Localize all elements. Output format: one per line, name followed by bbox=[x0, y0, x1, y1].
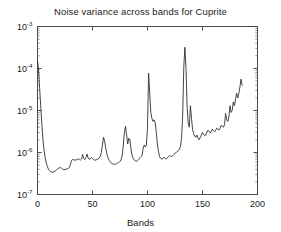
data-series-line bbox=[38, 47, 243, 172]
x-tick-label: 100 bbox=[140, 199, 155, 209]
x-tick-label: 200 bbox=[250, 199, 265, 209]
x-axis-tick-labels: 050100150200 bbox=[35, 199, 265, 209]
y-tick-label: 10-6 bbox=[17, 146, 33, 158]
y-tick-label: 10-4 bbox=[17, 62, 33, 74]
chart-plot: 050100150200 10-710-610-510-410-3 bbox=[0, 0, 281, 232]
x-axis-label: Bands bbox=[0, 217, 281, 228]
y-tick-label: 10-3 bbox=[17, 20, 33, 32]
y-axis-tick-labels: 10-710-610-510-410-3 bbox=[17, 20, 33, 200]
y-tick-label: 10-7 bbox=[17, 188, 33, 200]
y-tick-label: 10-5 bbox=[17, 104, 33, 116]
x-tick-label: 50 bbox=[87, 199, 97, 209]
x-tick-label: 0 bbox=[35, 199, 40, 209]
x-tick-label: 150 bbox=[195, 199, 210, 209]
figure-container: Noise variance across bands for Cuprite … bbox=[0, 0, 281, 232]
